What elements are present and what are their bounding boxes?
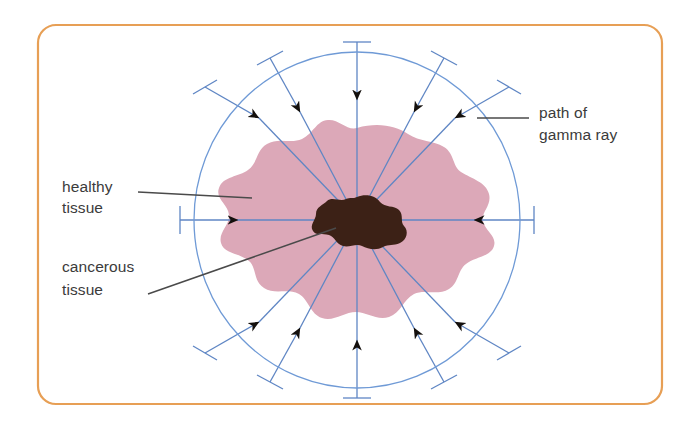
label-healthy-tissue-line1: healthy <box>62 178 113 195</box>
label-path-of-gamma-ray-line2: gamma ray <box>539 126 618 143</box>
figure-root: healthy tissue cancerous tissue path of … <box>0 0 692 429</box>
label-cancerous-tissue-line1: cancerous <box>62 258 135 275</box>
label-healthy-tissue-line2: tissue <box>62 199 103 216</box>
label-path-of-gamma-ray-line1: path of <box>539 104 588 121</box>
gamma-ray-therapy-diagram: healthy tissue cancerous tissue path of … <box>0 0 692 429</box>
label-cancerous-tissue-line2: tissue <box>62 281 103 298</box>
